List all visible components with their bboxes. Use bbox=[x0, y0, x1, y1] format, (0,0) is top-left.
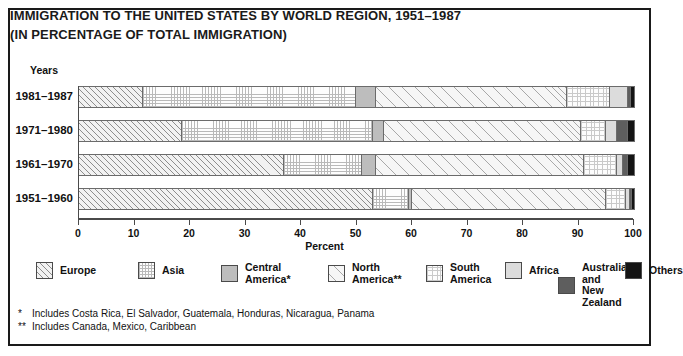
x-tick-label-0: 0 bbox=[63, 227, 93, 239]
bar-1951-1960 bbox=[78, 188, 635, 210]
legend: EuropeAsiaCentral America*North America*… bbox=[18, 258, 643, 288]
legend-label-4: North America** bbox=[352, 262, 402, 285]
segment-central-america bbox=[373, 121, 384, 141]
segment-others bbox=[628, 121, 634, 141]
legend-swatch-3 bbox=[221, 265, 238, 282]
y-axis-label-1: 1981–1987 bbox=[5, 90, 73, 102]
segment-north-america bbox=[376, 155, 584, 175]
x-tick-50 bbox=[356, 219, 357, 225]
footnote-1: *Includes Costa Rica, El Salvador, Guate… bbox=[18, 308, 374, 319]
segment-asia bbox=[373, 189, 409, 209]
segment-central-america bbox=[356, 87, 375, 107]
x-tick-label-100: 100 bbox=[618, 227, 648, 239]
x-tick-60 bbox=[411, 219, 412, 225]
y-axis-line bbox=[78, 86, 80, 219]
x-tick-label-90: 90 bbox=[563, 227, 593, 239]
legend-swatch-7 bbox=[558, 277, 575, 294]
segment-africa bbox=[606, 121, 617, 141]
legend-label-5: South America bbox=[450, 262, 491, 285]
legend-label-8: Others bbox=[649, 265, 683, 277]
legend-item-central-america: Central America* bbox=[221, 262, 291, 285]
x-tick-10 bbox=[134, 219, 135, 225]
x-tick-90 bbox=[578, 219, 579, 225]
segment-north-america bbox=[412, 189, 606, 209]
legend-item-south-america: South America bbox=[426, 262, 491, 285]
x-tick-40 bbox=[300, 219, 301, 225]
x-tick-0 bbox=[78, 219, 79, 225]
x-tick-30 bbox=[245, 219, 246, 225]
x-tick-label-30: 30 bbox=[230, 227, 260, 239]
segment-others bbox=[631, 87, 634, 107]
legend-label-3: Central America* bbox=[245, 262, 291, 285]
x-axis-title: Percent bbox=[0, 240, 661, 252]
legend-item-europe: Europe bbox=[36, 262, 96, 279]
legend-item-africa: Africa bbox=[505, 262, 559, 279]
legend-swatch-4 bbox=[328, 265, 345, 282]
segment-south-america bbox=[606, 189, 625, 209]
x-tick-80 bbox=[522, 219, 523, 225]
legend-swatch-6 bbox=[505, 262, 522, 279]
x-tick-label-50: 50 bbox=[341, 227, 371, 239]
legend-label-2: Asia bbox=[162, 265, 184, 277]
footnote-2-marker: ** bbox=[18, 321, 32, 332]
legend-item-north-america: North America** bbox=[328, 262, 402, 285]
x-tick-label-10: 10 bbox=[119, 227, 149, 239]
segment-europe bbox=[79, 155, 284, 175]
x-tick-label-80: 80 bbox=[507, 227, 537, 239]
bar-1961-1970 bbox=[78, 154, 635, 176]
segment-others bbox=[632, 189, 634, 209]
x-tick-label-70: 70 bbox=[452, 227, 482, 239]
segment-asia bbox=[182, 121, 373, 141]
x-tick-20 bbox=[189, 219, 190, 225]
segment-south-america bbox=[581, 121, 606, 141]
x-tick-100 bbox=[633, 219, 634, 225]
segment-africa bbox=[610, 87, 628, 107]
segment-south-america bbox=[567, 87, 610, 107]
legend-label-1: Europe bbox=[60, 265, 96, 277]
footnote-1-text: Includes Costa Rica, El Salvador, Guatem… bbox=[32, 308, 374, 319]
footnote-2-text: Includes Canada, Mexico, Caribbean bbox=[32, 321, 196, 332]
segment-south-america bbox=[584, 155, 617, 175]
segment-north-america bbox=[384, 121, 581, 141]
y-axis-label-4: 1951–1960 bbox=[5, 192, 73, 204]
legend-swatch-2 bbox=[138, 262, 155, 279]
legend-swatch-1 bbox=[36, 262, 53, 279]
legend-swatch-8 bbox=[625, 262, 642, 279]
segment-europe bbox=[79, 189, 373, 209]
y-axis-label-3: 1961–1970 bbox=[5, 158, 73, 170]
y-axis-label-2: 1971–1980 bbox=[5, 124, 73, 136]
legend-item-others: Others bbox=[625, 262, 683, 279]
footnote-1-marker: * bbox=[18, 308, 32, 319]
x-tick-70 bbox=[467, 219, 468, 225]
x-tick-label-60: 60 bbox=[396, 227, 426, 239]
segment-others bbox=[628, 155, 634, 175]
segment-asia bbox=[284, 155, 362, 175]
x-tick-label-20: 20 bbox=[174, 227, 204, 239]
bar-1981-1987 bbox=[78, 86, 635, 108]
segment-australia-and-new-zealand bbox=[617, 121, 628, 141]
footnote-2: **Includes Canada, Mexico, Caribbean bbox=[18, 321, 196, 332]
segment-central-america bbox=[362, 155, 376, 175]
bar-1971-1980 bbox=[78, 120, 635, 142]
segment-north-america bbox=[376, 87, 567, 107]
legend-item-asia: Asia bbox=[138, 262, 184, 279]
x-tick-label-40: 40 bbox=[285, 227, 315, 239]
legend-label-6: Africa bbox=[529, 265, 559, 277]
segment-europe bbox=[79, 121, 182, 141]
segment-asia bbox=[143, 87, 357, 107]
legend-swatch-5 bbox=[426, 265, 443, 282]
segment-europe bbox=[79, 87, 143, 107]
y-axis-title: Years bbox=[30, 64, 58, 76]
